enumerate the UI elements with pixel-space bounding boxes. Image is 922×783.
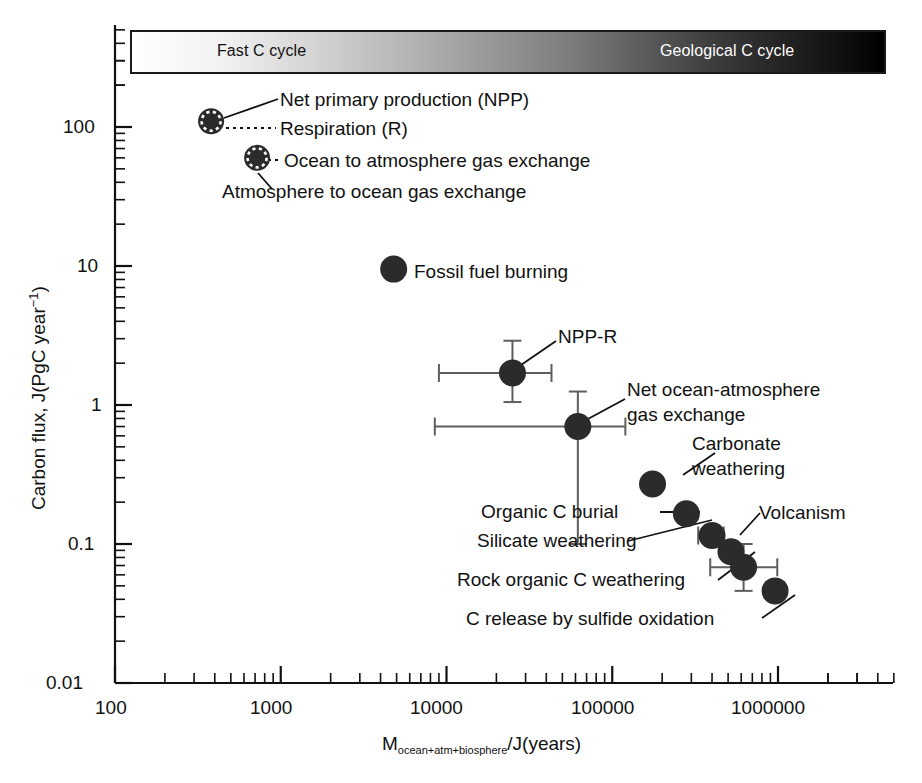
- y-axis-title-tail: ): [28, 286, 49, 292]
- point-label-net-ocean-atm-line2: gas exchange: [627, 402, 820, 427]
- marker-rock-organic-c-weathering: [730, 554, 757, 581]
- point-label-rock-organic: Rock organic C weathering: [457, 568, 685, 591]
- x-axis-ticks: [115, 666, 894, 683]
- point-label-carbonate-line1: Carbonate: [692, 431, 785, 456]
- x-tick-label-100: 100: [95, 697, 127, 719]
- x-axis-title-subscript: ocean+atm+biosphere: [398, 744, 507, 756]
- point-label-carbonate-line2: weathering: [692, 456, 785, 481]
- x-tick-label-1000: 1000: [250, 697, 292, 719]
- y-axis-title-exponent: −1: [26, 293, 41, 308]
- y-axis-title-main: Carbon flux, J(PgC year: [28, 307, 49, 510]
- marker-carbonate-weathering: [639, 471, 666, 498]
- point-label-npp-r: NPP-R: [558, 325, 617, 348]
- point-label-silicate: Silicate weathering: [477, 529, 636, 552]
- point-label-net-ocean-atm: Net ocean-atmosphere gas exchange: [627, 377, 820, 427]
- leader-net-ocean-atm: [586, 399, 625, 420]
- point-label-fossil: Fossil fuel burning: [414, 260, 568, 283]
- y-tick-label-0.1: 0.1: [68, 533, 94, 555]
- marker-fossil-fuel-burning: [380, 256, 407, 283]
- point-label-npp: Net primary production (NPP): [280, 88, 529, 111]
- marker-organic-c-burial: [673, 500, 700, 527]
- x-axis-title: Mocean+atm+biosphere/J(years): [382, 733, 581, 755]
- point-label-ocean-to-atm: Ocean to atmosphere gas exchange: [284, 149, 590, 172]
- marker-c-release-by-sulfide-oxidation: [762, 577, 789, 604]
- leader-npp: [224, 99, 278, 118]
- x-tick-label-100000: 100000: [571, 697, 634, 719]
- point-label-volcanism: Volcanism: [759, 501, 846, 524]
- marker-npp-r: [499, 359, 526, 386]
- x-tick-label-1000000: 1000000: [731, 697, 805, 719]
- point-label-carbonate: Carbonate weathering: [692, 431, 785, 481]
- y-tick-label-0.01: 0.01: [46, 672, 83, 694]
- y-tick-label-1: 1: [91, 394, 102, 416]
- point-label-sulfide: C release by sulfide oxidation: [466, 607, 714, 630]
- leader-npp-r: [521, 341, 556, 365]
- point-label-organic-burial: Organic C burial: [481, 500, 618, 523]
- x-axis-title-tail: /J(years): [507, 733, 581, 754]
- y-axis-ticks: [115, 30, 132, 683]
- x-axis-title-main: M: [382, 733, 398, 754]
- y-tick-label-100: 100: [63, 116, 95, 138]
- point-label-respiration: Respiration (R): [280, 117, 408, 140]
- y-axis-title: Carbon flux, J(PgC year−1): [26, 286, 50, 510]
- y-tick-label-10: 10: [77, 255, 98, 277]
- x-tick-label-10000: 10000: [410, 697, 463, 719]
- point-label-net-ocean-atm-line1: Net ocean-atmosphere: [627, 377, 820, 402]
- point-label-atm-to-ocean: Atmosphere to ocean gas exchange: [222, 180, 526, 203]
- marker-net-ocean-atmosphere-gas-exchange: [564, 413, 591, 440]
- carbon-flux-residence-time-chart: Fast C cycle Geological C cycle 1: [0, 0, 922, 783]
- leader-volcanism: [740, 513, 760, 535]
